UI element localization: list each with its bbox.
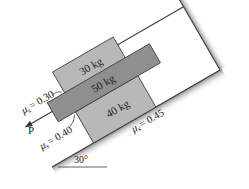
diagram-canvas: 30 kg 50 kg 40 kg μs= 0.30 μs= 0.40 μs= … xyxy=(0,0,249,189)
force-label-p: P xyxy=(28,124,34,136)
incline-frame: 30 kg 50 kg 40 kg μs= 0.30 μs= 0.40 μs= … xyxy=(0,0,234,182)
cable xyxy=(118,7,184,45)
angle-label: 30° xyxy=(74,154,88,165)
wall-shading xyxy=(162,0,227,70)
friction-label-040: μs= 0.40 xyxy=(37,124,75,154)
